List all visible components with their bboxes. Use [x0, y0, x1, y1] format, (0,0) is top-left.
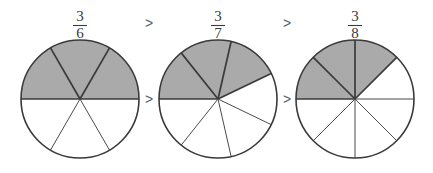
pie-circles-group	[21, 40, 414, 158]
fraction-numerator: 3	[76, 8, 84, 24]
fraction-label-3-over-8: 38	[348, 8, 362, 41]
fraction-numerator: 3	[214, 8, 222, 24]
fraction-denominator: 7	[214, 25, 222, 41]
comparison-operator-middle: >	[283, 91, 291, 107]
fraction-denominator: 6	[76, 25, 84, 41]
fraction-label-3-over-7: 37	[211, 8, 225, 41]
fraction-numerator: 3	[351, 8, 359, 24]
pie-circle-3-over-8	[296, 40, 414, 158]
fraction-comparison-svg: 363738 >>>>	[0, 0, 433, 173]
fraction-denominator: 8	[351, 25, 359, 41]
fraction-label-3-over-6: 36	[73, 8, 87, 41]
pie-circle-3-over-7	[159, 40, 277, 158]
comparison-operator-top: >	[145, 15, 153, 31]
fraction-comparison-figure: 363738 >>>>	[0, 0, 433, 173]
pie-circle-3-over-6	[21, 40, 139, 158]
comparison-operator-middle: >	[145, 91, 153, 107]
fraction-labels-group: 363738	[73, 8, 362, 41]
comparison-operator-top: >	[283, 15, 291, 31]
